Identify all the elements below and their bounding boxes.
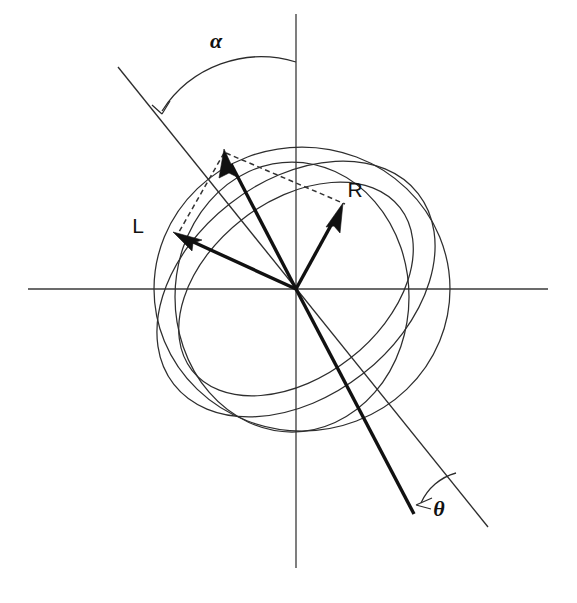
alpha-label: α — [210, 28, 223, 53]
left-vector-label: L — [132, 214, 144, 237]
right-vector-shaft — [296, 218, 335, 289]
alpha-angle-arc — [162, 57, 296, 111]
figure-root: L R α θ — [0, 0, 577, 603]
dashed-to-right-vector — [226, 153, 345, 204]
theta-angle-arrowhead — [416, 498, 432, 509]
resultant-vector-shaft — [231, 164, 296, 289]
alpha-angle-group: α — [152, 28, 296, 114]
left-vector-shaft — [189, 240, 296, 289]
rotated-axis-line — [118, 67, 488, 527]
resultant-vector-group — [219, 149, 296, 289]
vector-diagram: L R α θ — [0, 0, 577, 603]
rotated-axis-group — [118, 67, 488, 527]
right-vector-label: R — [347, 178, 362, 201]
theta-label: θ — [433, 496, 445, 521]
lower-thick-line — [296, 289, 414, 514]
lower-thick-line-group — [296, 289, 414, 514]
axes-group — [28, 14, 548, 568]
inner-circle — [175, 162, 409, 432]
left-vector-group: L — [132, 214, 296, 289]
right-vector-group: R — [296, 178, 363, 289]
